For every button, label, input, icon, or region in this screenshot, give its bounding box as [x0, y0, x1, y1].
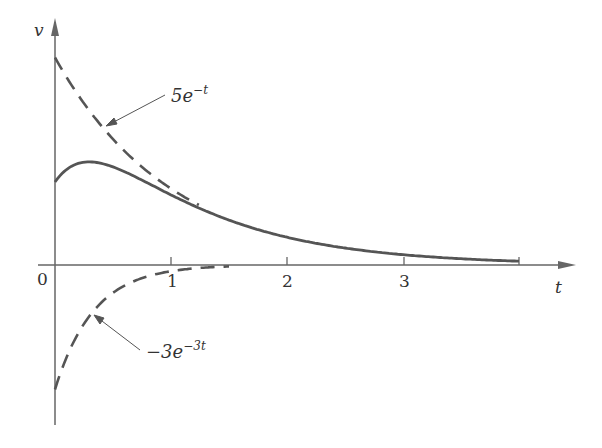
- axes: [38, 22, 570, 425]
- x-tick-label-3: 3: [399, 271, 410, 291]
- x-tick-label-1: 1: [167, 271, 178, 291]
- dashed-curve-5e-t: [55, 58, 199, 206]
- dashed-curve-neg3e-3t: [55, 266, 229, 389]
- solid-curve-v: [55, 162, 519, 261]
- y-axis-label: v: [34, 20, 44, 40]
- y-axis-arrow-icon: [51, 18, 59, 36]
- x-tick-label-2: 2: [282, 271, 293, 291]
- arrowhead-icon: [94, 315, 104, 324]
- chart-canvas: v t 0 1 2 3 5e−t −3e−3t: [0, 0, 602, 448]
- annotation-neg3e-3t: −3e−3t: [146, 339, 206, 362]
- x-axis-label: t: [555, 277, 562, 297]
- x-axis-arrow-icon: [558, 261, 576, 269]
- annotation-arrows: [94, 95, 165, 350]
- annotation-5e-t: 5e−t: [171, 83, 208, 106]
- arrowhead-icon: [106, 118, 117, 126]
- origin-label: 0: [37, 269, 48, 289]
